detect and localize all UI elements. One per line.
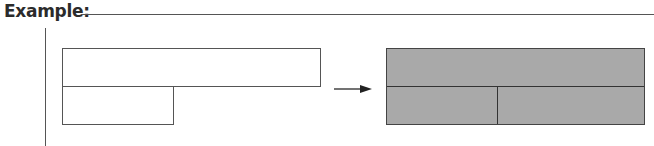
after-vertical-divider bbox=[497, 86, 498, 124]
heading-rule bbox=[82, 14, 654, 15]
after-filled-rectangle bbox=[386, 48, 645, 125]
after-horizontal-divider bbox=[387, 86, 644, 87]
before-top-rectangle bbox=[62, 48, 321, 87]
arrow-right-icon bbox=[334, 84, 372, 94]
before-bottom-rectangle bbox=[62, 86, 174, 125]
margin-rule bbox=[45, 28, 46, 146]
example-label: Example: bbox=[4, 0, 90, 22]
